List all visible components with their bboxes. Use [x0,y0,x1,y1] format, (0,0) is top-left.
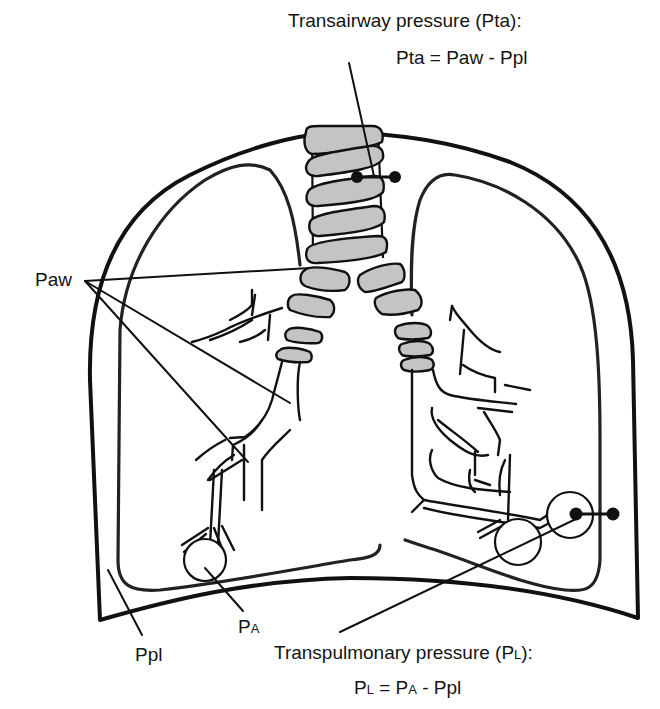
tp-formula-rest: - Ppl [417,677,461,698]
paw-label: Paw [35,270,72,289]
transpulmonary-pressure-title: Transpulmonary pressure (PL): [274,643,533,662]
tp-formula-pl-sub: L [367,682,374,697]
tp-formula-pa-sub: A [408,682,417,697]
tp-title-end: ): [521,642,533,663]
left-alveolus [184,539,226,581]
lung-pressure-diagram [0,0,660,709]
pa-label-sub: A [251,621,260,636]
tracheal-cartilage-rings [304,126,387,263]
pa-label-main: P [238,616,251,637]
pa-label: PA [238,617,259,636]
pl-leader-line [340,518,578,632]
left-bronchial-tree [182,290,300,560]
right-alveolus-lower [495,519,541,565]
transpulmonary-pressure-formula: PL = PA - Ppl [354,678,461,697]
ppl-label: Ppl [135,645,162,664]
tp-title-main: Transpulmonary pressure (P [274,642,514,663]
tp-formula-eq: = P [374,677,408,698]
ppl-leader-line [108,570,142,635]
transairway-pressure-title: Transairway pressure (Pta): [288,11,522,30]
transairway-pressure-formula: Pta = Paw - Ppl [396,48,527,67]
tp-formula-pl: P [354,677,367,698]
right-bronchial-tree [412,306,555,538]
